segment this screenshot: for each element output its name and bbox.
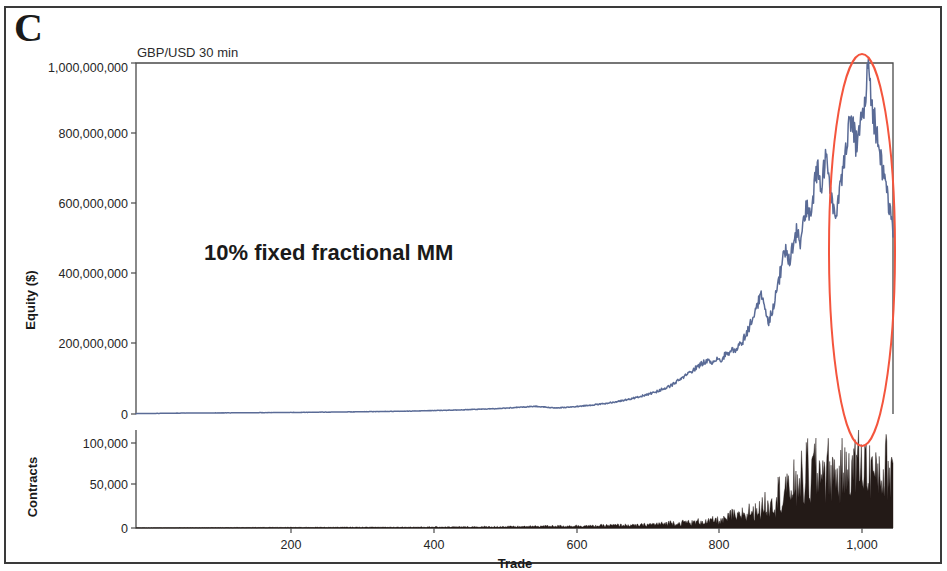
equity-axis-title: Equity ($) [23, 270, 38, 329]
figure-panel-c: C GBP/USD 30 min 1,000,000,000 800,000,0… [0, 0, 947, 571]
x-axis-title: Trade [498, 556, 533, 571]
x-axis: 200 400 600 800 1,000 Trade [281, 528, 878, 571]
equity-panel: 1,000,000,000 800,000,000 600,000,000 40… [23, 59, 893, 422]
xtick-label-1: 400 [424, 538, 445, 552]
chart-canvas: 1,000,000,000 800,000,000 600,000,000 40… [0, 0, 947, 571]
equity-ytick-label-3: 400,000,000 [58, 267, 128, 281]
xtick-label-3: 800 [709, 538, 730, 552]
contracts-histogram-area [136, 430, 893, 528]
contracts-ytick-label-2: 0 [121, 522, 128, 536]
xtick-label-2: 600 [567, 538, 588, 552]
equity-plot-border [136, 63, 893, 414]
equity-ytick-label-5: 0 [121, 408, 128, 422]
equity-ytick-label-2: 600,000,000 [58, 197, 128, 211]
contracts-y-ticks [131, 443, 136, 528]
xtick-label-4: 1,000 [846, 538, 877, 552]
contracts-ytick-label-0: 100,000 [83, 437, 128, 451]
equity-ytick-label-4: 200,000,000 [58, 337, 128, 351]
contracts-ytick-label-1: 50,000 [90, 478, 128, 492]
xtick-label-0: 200 [281, 538, 302, 552]
x-ticks [291, 528, 862, 533]
equity-ytick-label-1: 800,000,000 [58, 127, 128, 141]
contracts-axis-title: Contracts [25, 457, 40, 518]
contracts-panel: 100,000 50,000 0 Contracts [25, 430, 893, 536]
equity-curve-line [136, 59, 893, 414]
equity-ytick-label-0: 1,000,000,000 [48, 61, 128, 75]
equity-y-ticks [131, 63, 136, 414]
strategy-annotation: 10% fixed fractional MM [204, 240, 453, 265]
